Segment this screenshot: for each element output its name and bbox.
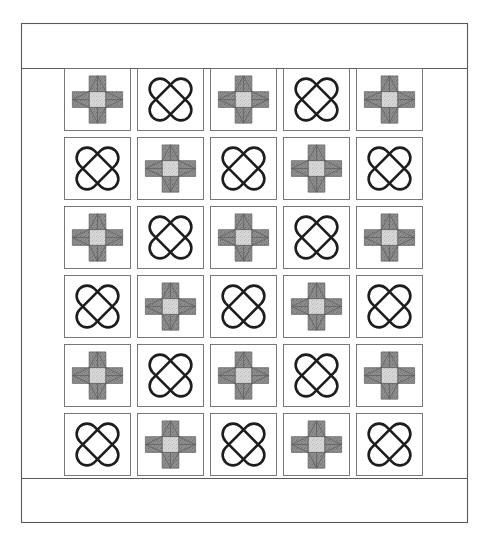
variable-star-block[interactable]: [357, 69, 423, 131]
variable-star-block[interactable]: [138, 414, 204, 476]
block-outline: [138, 345, 204, 407]
interlocking-x-block[interactable]: [138, 69, 204, 131]
variable-star-block[interactable]: [211, 69, 277, 131]
star-center-square: [235, 230, 252, 246]
block-outline: [138, 69, 204, 131]
interlocking-x-block[interactable]: [357, 138, 423, 200]
block-outline: [284, 69, 350, 131]
block-outline: [284, 207, 350, 269]
variable-star-block[interactable]: [211, 207, 277, 269]
star-center-square: [308, 299, 325, 315]
variable-star-block[interactable]: [138, 276, 204, 338]
interlocking-x-block[interactable]: [284, 207, 350, 269]
interlocking-x-block[interactable]: [65, 414, 131, 476]
star-center-square: [235, 92, 252, 108]
variable-star-block[interactable]: [284, 276, 350, 338]
variable-star-block[interactable]: [357, 207, 423, 269]
variable-star-block[interactable]: [65, 69, 131, 131]
interlocking-x-block[interactable]: [284, 345, 350, 407]
interlocking-x-block[interactable]: [211, 414, 277, 476]
interlocking-x-block[interactable]: [284, 69, 350, 131]
star-center-square: [89, 230, 106, 246]
block-outline: [284, 345, 350, 407]
variable-star-block[interactable]: [284, 138, 350, 200]
star-center-square: [308, 437, 325, 453]
star-center-square: [89, 368, 106, 384]
block-outline: [211, 414, 277, 476]
interlocking-x-block[interactable]: [138, 345, 204, 407]
quilt-diagram-canvas: [0, 0, 489, 545]
block-outline: [65, 276, 131, 338]
star-center-square: [162, 437, 179, 453]
block-outline: [211, 276, 277, 338]
star-center-square: [162, 161, 179, 177]
block-outline: [357, 414, 423, 476]
interlocking-x-block[interactable]: [65, 276, 131, 338]
star-center-square: [308, 161, 325, 177]
quilt-layout-svg: [0, 0, 489, 545]
interlocking-x-block[interactable]: [211, 276, 277, 338]
block-outline: [357, 276, 423, 338]
variable-star-block[interactable]: [284, 414, 350, 476]
block-outline: [357, 138, 423, 200]
star-center-square: [381, 368, 398, 384]
variable-star-block[interactable]: [138, 138, 204, 200]
variable-star-block[interactable]: [65, 207, 131, 269]
interlocking-x-block[interactable]: [357, 276, 423, 338]
star-center-square: [89, 92, 106, 108]
variable-star-block[interactable]: [357, 345, 423, 407]
interlocking-x-block[interactable]: [138, 207, 204, 269]
variable-star-block[interactable]: [65, 345, 131, 407]
star-center-square: [381, 92, 398, 108]
star-center-square: [381, 230, 398, 246]
star-center-square: [235, 368, 252, 384]
block-outline: [211, 138, 277, 200]
variable-star-block[interactable]: [211, 345, 277, 407]
interlocking-x-block[interactable]: [357, 414, 423, 476]
block-outline: [65, 138, 131, 200]
interlocking-x-block[interactable]: [65, 138, 131, 200]
star-center-square: [162, 299, 179, 315]
block-outline: [138, 207, 204, 269]
block-outline: [65, 414, 131, 476]
interlocking-x-block[interactable]: [211, 138, 277, 200]
